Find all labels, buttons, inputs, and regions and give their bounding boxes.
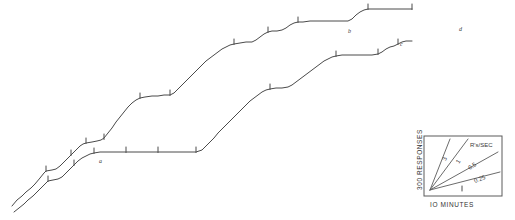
point-label-group: abcd <box>99 26 463 164</box>
rate-line-3 <box>430 139 450 190</box>
legend-y-axis-label: 300 RESPONSES <box>416 129 423 190</box>
trace-lower-record <box>14 41 412 212</box>
cumulative-record-figure: abcd 3 1 0.5 0.25 R's/SEC 300 RESPONSES … <box>0 0 515 220</box>
rate-line-0.25 <box>430 172 500 190</box>
rate-line-1 <box>430 139 468 190</box>
rate-unit-label: R's/SEC <box>470 142 493 148</box>
point-label-d: d <box>459 26 463 32</box>
point-label-a: a <box>99 158 102 164</box>
legend-x-axis-label: IO MINUTES <box>430 201 474 208</box>
tick-mark-group <box>46 4 412 182</box>
cumulative-record-canvas: abcd 3 1 0.5 0.25 R's/SEC 300 RESPONSES … <box>0 0 515 220</box>
rate-label-05: 0.5 <box>467 161 478 171</box>
rate-label-1: 1 <box>455 158 462 165</box>
rate-label-3: 3 <box>441 156 448 162</box>
point-label-c: c <box>400 41 403 47</box>
rate-label-025: 0.25 <box>473 174 487 184</box>
rate-line-0.5 <box>430 152 498 190</box>
rate-legend: 3 1 0.5 0.25 R's/SEC 300 RESPONSES IO MI… <box>416 129 502 208</box>
trace-upper-record <box>12 9 412 206</box>
trace-group <box>12 9 412 212</box>
point-label-b: b <box>348 28 351 34</box>
